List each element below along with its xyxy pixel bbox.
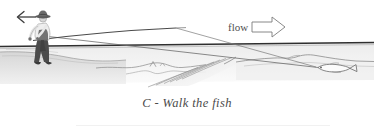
figure-caption: C - Walk the fish bbox=[0, 96, 374, 111]
fishing-technique-illustration bbox=[0, 0, 374, 132]
flow-label: flow bbox=[228, 21, 248, 33]
